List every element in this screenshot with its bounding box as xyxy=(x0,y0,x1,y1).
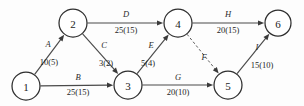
node-4-label: 4 xyxy=(175,18,181,30)
edge-E-value: 5(4) xyxy=(141,58,155,68)
edge-A-arrowhead xyxy=(58,35,64,42)
node-2-label: 2 xyxy=(70,18,76,30)
edge-B-letter: B xyxy=(75,72,80,82)
edge-C-letter: C xyxy=(101,40,107,50)
edge-G-arrowhead xyxy=(207,82,213,87)
edge-H-arrowhead xyxy=(258,20,264,25)
edge-B-value: 25(15) xyxy=(67,87,90,97)
edge-C-value: 3(2) xyxy=(99,58,113,68)
edge-D-value: 25(15) xyxy=(115,25,138,35)
edge-B-line xyxy=(40,85,107,86)
node-1-label: 1 xyxy=(23,81,29,93)
edge-G-value: 20(10) xyxy=(167,87,190,97)
edge-B-arrowhead xyxy=(107,83,113,88)
edge-H-value: 20(15) xyxy=(217,25,240,35)
edge-D-letter: D xyxy=(122,9,130,19)
network-diagram-svg: 123456 A10(5)B25(15)C3(2)D25(15)E5(4)FG2… xyxy=(0,0,304,106)
edge-A-value: 10(5) xyxy=(40,57,59,67)
edge-H-letter: H xyxy=(224,9,232,19)
network-diagram-canvas: 123456 A10(5)B25(15)C3(2)D25(15)E5(4)FG2… xyxy=(0,0,304,106)
edge-A-letter: A xyxy=(44,39,51,49)
edge-I-value: 15(10) xyxy=(251,60,274,70)
edge-G-letter: G xyxy=(175,72,181,82)
edge-F-letter: F xyxy=(200,52,207,62)
edge-F-arrowhead xyxy=(213,67,219,73)
edge-E-letter: E xyxy=(147,40,154,50)
node-3-label: 3 xyxy=(125,80,131,92)
edge-D-arrowhead xyxy=(157,20,163,25)
node-6-label: 6 xyxy=(275,18,281,30)
node-5-label: 5 xyxy=(225,80,231,92)
